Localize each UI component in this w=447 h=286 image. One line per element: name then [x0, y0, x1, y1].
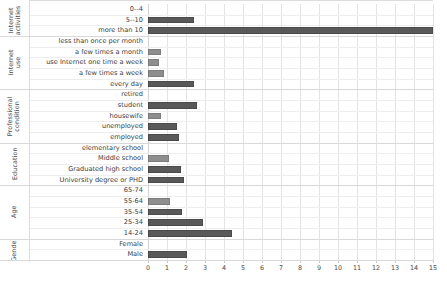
category-label: Middle school — [30, 154, 143, 162]
row-separator — [30, 121, 433, 122]
group-label-text: Internet use — [8, 48, 23, 78]
bar — [148, 123, 177, 130]
bar — [148, 155, 169, 162]
category-label: 35-54 — [30, 208, 143, 216]
x-tick-label: 3 — [197, 264, 213, 272]
x-axis: 0123456789101112131415 — [148, 260, 433, 282]
category-label: Graduated high school — [30, 165, 143, 173]
x-tick-label: 9 — [311, 264, 327, 272]
x-tick-label: 15 — [425, 264, 441, 272]
category-label: student — [30, 101, 143, 109]
category-label: a few times a month — [30, 48, 143, 56]
group-label: Professional condition — [0, 89, 30, 142]
row-separator — [30, 57, 433, 58]
row-separator — [30, 79, 433, 80]
row-separator — [30, 217, 433, 218]
row-separator — [30, 100, 433, 101]
category-label: unemployed — [30, 122, 143, 130]
bar — [148, 27, 433, 34]
bar — [148, 209, 182, 216]
x-tick-label: 11 — [349, 264, 365, 272]
group-label-text: Gender — [11, 239, 18, 260]
group-separator — [0, 143, 433, 144]
bar — [148, 17, 194, 24]
bar — [148, 59, 159, 66]
row-separator — [30, 164, 433, 165]
row-separator — [30, 111, 433, 112]
row-separator — [30, 207, 433, 208]
bar — [148, 134, 179, 141]
category-label: housewife — [30, 112, 143, 120]
bar — [148, 219, 203, 226]
bar — [148, 49, 161, 56]
bar — [148, 113, 161, 120]
x-tick-label: 12 — [368, 264, 384, 272]
group-separator — [0, 239, 433, 240]
group-separator — [0, 89, 433, 90]
group-label-text: Internet activities — [8, 5, 23, 35]
category-label: University degree or PHD — [30, 176, 143, 184]
group-separator — [0, 36, 433, 37]
x-tick-mark — [433, 260, 434, 263]
category-label: retired — [30, 90, 143, 98]
x-tick-label: 14 — [406, 264, 422, 272]
x-tick-label: 5 — [235, 264, 251, 272]
group-label-text: Education — [11, 148, 18, 181]
category-label: Female — [30, 240, 143, 248]
bar — [148, 198, 170, 205]
category-label: more than 10 — [30, 26, 143, 34]
category-label: every day — [30, 80, 143, 88]
bar — [148, 102, 197, 109]
row-separator — [30, 47, 433, 48]
bar — [148, 70, 164, 77]
bar — [148, 251, 187, 258]
row-separator — [30, 249, 433, 250]
category-label: less than once per month — [30, 37, 143, 45]
group-label: Internet activities — [0, 4, 30, 36]
category-label: elementary school — [30, 144, 143, 152]
row-separator — [30, 25, 433, 26]
group-label-column: Internet activitiesInternet useProfessio… — [0, 0, 30, 262]
category-label: use Internet one time a week — [30, 58, 143, 66]
row-separator — [30, 153, 433, 154]
x-tick-label: 1 — [159, 264, 175, 272]
group-separator — [0, 185, 433, 186]
row-separator — [30, 228, 433, 229]
group-label: Education — [0, 143, 30, 186]
row-separator — [30, 132, 433, 133]
row-separator — [30, 196, 433, 197]
bar — [148, 81, 194, 88]
category-label: a few times a week — [30, 69, 143, 77]
row-separator — [30, 15, 433, 16]
x-tick-label: 7 — [273, 264, 289, 272]
bar — [148, 166, 181, 173]
row-separator — [30, 175, 433, 176]
category-label: 65-74 — [30, 186, 143, 194]
x-tick-label: 10 — [330, 264, 346, 272]
group-label-text: Age — [11, 197, 18, 227]
group-label: Internet use — [0, 36, 30, 89]
group-label: Gender — [0, 239, 30, 260]
category-label: 25-34 — [30, 218, 143, 226]
x-tick-label: 13 — [387, 264, 403, 272]
bar — [148, 177, 184, 184]
group-label-text: Professional condition — [8, 96, 23, 136]
category-label-column: 0--45--10more than 10less than once per … — [30, 0, 146, 262]
x-tick-label: 4 — [216, 264, 232, 272]
category-label: Male — [30, 250, 143, 258]
group-separator — [0, 260, 433, 261]
row-separator — [30, 68, 433, 69]
x-tick-label: 8 — [292, 264, 308, 272]
gridline — [433, 4, 434, 260]
horizontal-bar-chart: Internet activitiesInternet useProfessio… — [0, 0, 447, 286]
x-tick-label: 2 — [178, 264, 194, 272]
x-tick-label: 6 — [254, 264, 270, 272]
category-label: 0--4 — [30, 5, 143, 13]
category-label: 55-64 — [30, 197, 143, 205]
bar — [148, 230, 232, 237]
category-label: employed — [30, 133, 143, 141]
group-label: Age — [0, 185, 30, 238]
category-label: 14-24 — [30, 229, 143, 237]
x-tick-label: 0 — [140, 264, 156, 272]
category-label: 5--10 — [30, 16, 143, 24]
